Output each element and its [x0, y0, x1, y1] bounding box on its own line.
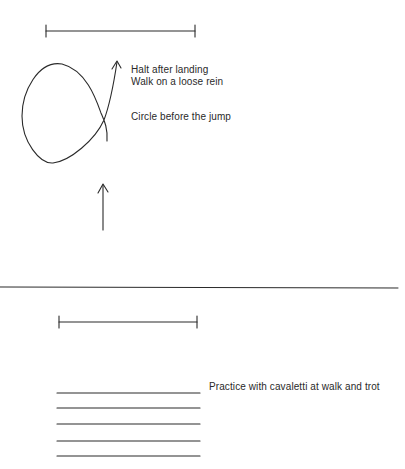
circle-path-arrow — [22, 61, 121, 163]
top-jump-fence — [46, 25, 195, 37]
approach-arrow — [98, 184, 108, 230]
bottom-jump-fence — [59, 316, 197, 328]
label-circle-before-jump: Circle before the jump — [131, 111, 231, 123]
section-divider — [0, 287, 398, 288]
label-cavaletti-practice: Practice with cavaletti at walk and trot — [209, 381, 380, 393]
label-halt-after-landing: Halt after landing — [131, 64, 208, 76]
cavaletti-poles — [57, 393, 200, 456]
label-walk-loose-rein: Walk on a loose rein — [131, 76, 223, 88]
